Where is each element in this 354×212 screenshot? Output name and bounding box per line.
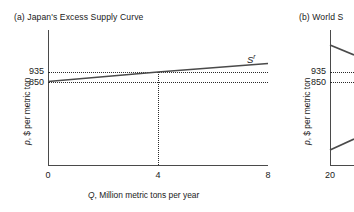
panel-a-xtick-8: 8 [258, 170, 278, 180]
panel-a-ytick-850: 850 [10, 77, 44, 87]
panel-b-supply-curve-line [330, 139, 354, 150]
two-panel-figure: (a) Japan's Excess Supply Curve p, $ per… [0, 0, 354, 212]
panel-a-ytick-935: 935 [10, 66, 44, 76]
panel-a-curve-svg [0, 0, 290, 212]
panel-b-ytick-850: 850 [292, 77, 326, 87]
panel-b-xtick-20: 20 [320, 170, 340, 180]
panel-b-curve-svg [290, 0, 354, 212]
panel-a-xtick-0: 0 [38, 170, 58, 180]
panel-b-demand-curve-line [330, 45, 354, 55]
panel-a-supply-curve-label: Sr [247, 53, 256, 65]
panel-b-ytick-935: 935 [292, 66, 326, 76]
panel-a-x-axis-label-text: , Million metric tons per year [95, 190, 200, 200]
panel-a-supply-curve-label-sup: r [253, 53, 255, 60]
panel-a-xtick-4: 4 [148, 170, 168, 180]
panel-a-x-axis-label: Q, Million metric tons per year [88, 190, 199, 200]
panel-japan-excess-supply: (a) Japan's Excess Supply Curve p, $ per… [0, 0, 290, 212]
panel-world-supply: (b) World S p, $ per metric ton 935 850 … [290, 0, 354, 212]
panel-a-supply-curve-line [48, 64, 268, 82]
